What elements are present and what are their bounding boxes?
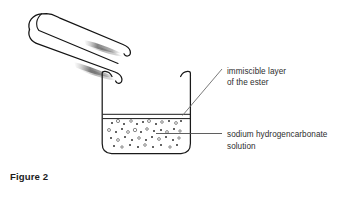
test-tube-tongs-icon — [29, 14, 131, 84]
solution-bubble — [140, 131, 142, 133]
solution-bubble — [133, 128, 136, 131]
solution-bubble — [179, 130, 181, 132]
solution-bubble — [138, 137, 141, 140]
tongs-upper-arm — [29, 14, 130, 56]
tongs-inner-edge — [37, 14, 118, 64]
solution-bubble — [160, 144, 162, 146]
solution-bubble — [173, 128, 175, 130]
solution-bubble — [165, 136, 167, 138]
solution-bubble — [160, 129, 162, 131]
tongs-lower-shading-soft — [80, 66, 117, 81]
solution-bubble — [117, 139, 120, 142]
solution-bubble — [145, 139, 147, 141]
solution-bubble — [178, 137, 180, 139]
solution-bubble — [153, 130, 155, 132]
solution-bubble — [113, 145, 115, 147]
label-bicarbonate-line2: solution — [227, 141, 327, 153]
label-sodium-hydrogencarbonate: sodium hydrogencarbonate solution — [227, 129, 327, 152]
solution-bubble — [129, 144, 131, 146]
label-immiscible-line2: of the ester — [227, 77, 286, 89]
solution-bubble — [127, 131, 130, 134]
solution-bubble — [161, 121, 164, 124]
figure-2-diagram: immiscible layer of the ester sodium hyd… — [0, 0, 363, 217]
beaker-outline — [102, 71, 190, 153]
label-immiscible-line1: immiscible layer — [227, 66, 286, 78]
leader-line-immiscible — [183, 69, 223, 116]
solution-bubble — [166, 131, 169, 134]
solution-bubble — [136, 123, 138, 125]
solution-bubble — [146, 128, 149, 131]
solution-bubble — [151, 136, 153, 138]
solution-bubble — [137, 146, 139, 148]
beaker — [102, 71, 190, 153]
solution-bubble — [169, 146, 171, 148]
solution-bubble — [130, 120, 133, 123]
solution-bubble — [121, 146, 123, 148]
solution-bubble — [155, 123, 157, 125]
solution-bubble — [168, 120, 170, 122]
solution-bubble — [111, 122, 113, 124]
solution-bubble — [175, 122, 178, 125]
solution-bubble — [158, 138, 161, 141]
label-bicarbonate-line1: sodium hydrogencarbonate — [227, 129, 327, 141]
solution-bubble — [172, 139, 174, 141]
solution-bubble — [108, 129, 111, 132]
solution-bubble — [116, 119, 119, 122]
solution-bubble — [144, 144, 147, 147]
esterification-apparatus-illustration — [0, 0, 363, 217]
solution-bubble — [152, 146, 154, 148]
solution-bubble — [115, 131, 117, 133]
solution-bubble — [142, 121, 144, 123]
solution-bubble — [110, 137, 112, 139]
solution-bubble — [124, 136, 126, 138]
figure-caption: Figure 2 — [10, 171, 48, 182]
solution-bubble — [131, 139, 133, 141]
solution-bubble — [176, 144, 178, 146]
tongs-upper-shading-soft — [90, 44, 124, 57]
solution-bubble — [148, 120, 151, 123]
solution-bubble — [123, 123, 125, 125]
solution-bubble — [180, 120, 182, 122]
label-immiscible-layer: immiscible layer of the ester — [227, 66, 286, 89]
solution-bubble — [121, 128, 123, 130]
